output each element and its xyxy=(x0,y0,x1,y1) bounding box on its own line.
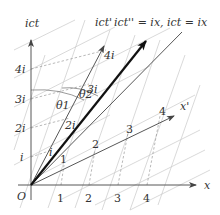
x-tick-2: 2 xyxy=(85,192,92,205)
ictprime-tick-2: 2i xyxy=(64,119,76,132)
ict-tick-2: 2i xyxy=(14,122,26,135)
ictprime-tick-1: i xyxy=(49,146,53,159)
ict-prime-axis xyxy=(31,46,104,185)
bold-vector xyxy=(31,41,146,185)
ict-tick-1: i xyxy=(20,151,24,164)
origin-label: O xyxy=(17,190,26,203)
ict-prime-axis-label: ict' xyxy=(95,16,112,29)
xprime-tick-2: 2 xyxy=(92,138,99,151)
ict-tick-3: 3i xyxy=(15,93,26,106)
x-tick-1: 1 xyxy=(57,192,64,205)
x-prime-axis-label: x' xyxy=(180,100,189,113)
ictprime-tick-4: 4i xyxy=(103,49,115,62)
ict-double-prime-label: ict'' = ix, ict = ix xyxy=(114,16,208,29)
ict-axis-label: ict xyxy=(25,17,40,30)
x-axis-label: x xyxy=(204,179,211,192)
x-tick-3: 3 xyxy=(114,192,121,205)
ict-tick-4: 4i xyxy=(14,63,26,76)
xprime-tick-1: 1 xyxy=(60,153,67,166)
theta2-label: θ2 xyxy=(79,88,93,101)
xprime-tick-3: 3 xyxy=(126,123,133,136)
theta1-label: θ1 xyxy=(56,99,70,112)
spacetime-diagram: ict ict' ict'' = ix, ict = ix x x' O i 2… xyxy=(0,0,220,215)
xprime-tick-4: 4 xyxy=(159,105,166,118)
x-tick-4: 4 xyxy=(143,192,150,205)
